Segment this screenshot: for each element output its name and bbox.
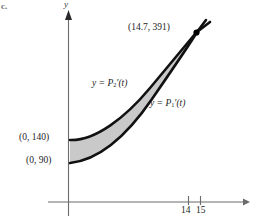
x-tick-label-15: 15 [196,206,206,216]
curve-p2-suffix: ′(t) [116,78,127,88]
intercept-lower-label: (0, 90) [26,156,51,166]
curve-p1-prime-label: y = P1′(t) [150,99,185,109]
intercept-upper-label: (0, 140) [19,133,49,143]
curve-p2-prime-label: y = P2′(t) [92,79,127,89]
problem-letter-label: c. [1,2,7,11]
x-axis-arrowhead [243,198,250,205]
figure-container: c. y (14.7, 391) y = P2′(t) y = P1′(t) (… [0,0,253,223]
y-axis-arrowhead [65,10,72,20]
curve-p2-prefix: y = P [92,78,113,88]
graph-canvas [0,0,253,223]
x-tick-label-14: 14 [181,206,191,216]
curve-p1-prefix: y = P [150,98,171,108]
intersection-point-marker [193,29,199,35]
intersection-point-label: (14.7, 391) [128,23,170,33]
curve-p1-suffix: ′(t) [174,98,185,108]
y-axis-label: y [64,0,68,9]
curve-p2-prime [70,20,206,140]
